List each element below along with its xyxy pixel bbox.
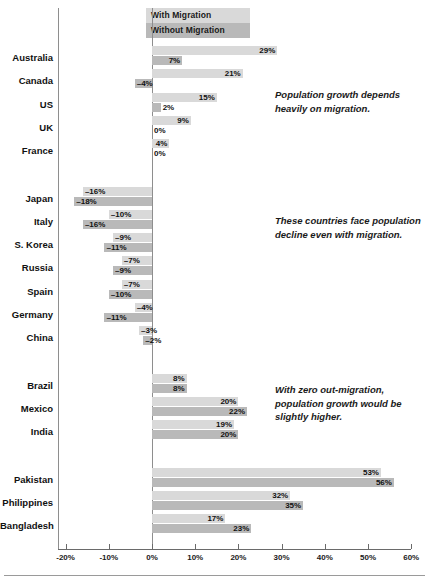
bar-value-with-migration-china: –3% — [141, 326, 157, 335]
bar-value-without-migration-spain: –10% — [111, 290, 131, 299]
x-axis-tick-label: 30% — [274, 553, 290, 562]
category-label-us: US — [0, 99, 53, 110]
bar-without-migration-us — [152, 103, 161, 112]
category-label-spain: Spain — [0, 286, 53, 297]
x-axis-tick-label: 50% — [360, 553, 376, 562]
category-label-china: China — [0, 332, 53, 343]
x-axis-tick — [66, 544, 67, 549]
bar-value-with-migration-us: 15% — [199, 93, 215, 102]
bar-value-with-migration-canada: 21% — [225, 69, 241, 78]
bar-with-migration-philippines — [152, 491, 290, 500]
bar-value-with-migration-italy: –10% — [111, 210, 131, 219]
bar-value-without-migration-france: 0% — [154, 149, 166, 158]
bar-value-without-migration-japan: –18% — [76, 197, 96, 206]
bar-value-without-migration-australia: 7% — [169, 56, 181, 65]
annotation-population-growth-migration: Population growth depends heavily on mig… — [275, 88, 425, 115]
category-label-pakistan: Pakistan — [0, 474, 53, 485]
category-label-mexico: Mexico — [0, 403, 53, 414]
bar-value-with-migration-india: 19% — [216, 420, 232, 429]
category-label-uk: UK — [0, 122, 53, 133]
category-label-italy: Italy — [0, 216, 53, 227]
x-axis-tick-label: 60% — [403, 553, 419, 562]
annotation-zero-out-migration: With zero out-migration, population grow… — [275, 383, 425, 424]
legend-item-with-migration[interactable]: With Migration — [146, 8, 250, 23]
bar-value-without-migration-us: 2% — [163, 103, 175, 112]
x-axis-tick — [109, 544, 110, 549]
x-axis-tick — [238, 544, 239, 549]
bar-value-with-migration-australia: 29% — [259, 46, 275, 55]
bar-value-without-migration-philippines: 35% — [285, 501, 301, 510]
migration-population-growth-chart: With Migration Without Migration -20%-10… — [0, 0, 429, 582]
bar-value-without-migration-russia: –9% — [115, 266, 131, 275]
bar-without-migration-philippines — [152, 501, 303, 510]
x-axis-tick-label: 0% — [146, 553, 158, 562]
bottom-divider-rule — [4, 575, 425, 576]
bar-value-with-migration-philippines: 32% — [272, 491, 288, 500]
x-axis-tick-label: 40% — [317, 553, 333, 562]
category-label-france: France — [0, 145, 53, 156]
bar-value-without-migration-canada: –4% — [137, 79, 153, 88]
bar-value-without-migration-bangladesh: 23% — [233, 524, 249, 533]
category-label-russia: Russia — [0, 262, 53, 273]
x-axis-tick — [368, 544, 369, 549]
bar-value-without-migration-uk: 0% — [154, 126, 166, 135]
x-axis-line — [58, 549, 411, 550]
bar-value-without-migration-italy: –16% — [85, 220, 105, 229]
chart-legend: With Migration Without Migration — [146, 8, 250, 38]
bar-value-with-migration-russia: –7% — [124, 256, 140, 265]
bar-value-with-migration-pakistan: 53% — [363, 468, 379, 477]
category-label-japan: Japan — [0, 193, 53, 204]
category-label-bangladesh: Bangladesh — [0, 520, 53, 531]
bar-value-with-migration-japan: –16% — [85, 187, 105, 196]
bar-value-without-migration-brazil: 8% — [173, 384, 185, 393]
bar-with-migration-pakistan — [152, 468, 381, 477]
annotation-population-decline: These countries face population decline … — [275, 214, 425, 241]
x-axis-tick-label: -20% — [56, 553, 75, 562]
x-axis-tick-label: 20% — [230, 553, 246, 562]
x-axis-tick — [282, 544, 283, 549]
category-label-australia: Australia — [0, 52, 53, 63]
bar-value-with-migration-bangladesh: 17% — [207, 514, 223, 523]
bar-value-without-migration-germany: –11% — [106, 313, 126, 322]
bar-value-with-migration-spain: –7% — [124, 280, 140, 289]
bar-value-without-migration-mexico: 22% — [229, 407, 245, 416]
bar-value-with-migration-brazil: 8% — [173, 374, 185, 383]
bar-value-with-migration-s-korea: –9% — [115, 233, 131, 242]
bar-value-with-migration-uk: 9% — [177, 116, 189, 125]
x-axis-tick — [152, 544, 153, 549]
x-axis-tick — [195, 544, 196, 549]
category-label-germany: Germany — [0, 309, 53, 320]
bar-value-with-migration-france: 4% — [156, 139, 168, 148]
category-label-brazil: Brazil — [0, 380, 53, 391]
category-label-philippines: Philippines — [0, 497, 53, 508]
category-label-india: India — [0, 426, 53, 437]
bar-value-without-migration-china: –2% — [145, 336, 161, 345]
bar-value-with-migration-germany: –4% — [137, 303, 153, 312]
bar-value-without-migration-india: 20% — [220, 430, 236, 439]
category-label-canada: Canada — [0, 75, 53, 86]
x-axis-tick-label: -10% — [99, 553, 118, 562]
bar-value-without-migration-s-korea: –11% — [106, 243, 126, 252]
bar-value-with-migration-mexico: 20% — [220, 397, 236, 406]
x-axis-tick — [325, 544, 326, 549]
category-label-s-korea: S. Korea — [0, 239, 53, 250]
legend-item-without-migration[interactable]: Without Migration — [146, 23, 250, 38]
x-axis-tick-label: 10% — [187, 553, 203, 562]
bar-without-migration-pakistan — [152, 478, 394, 487]
bar-value-without-migration-pakistan: 56% — [376, 478, 392, 487]
left-axis-line — [58, 8, 59, 549]
x-axis-tick — [411, 544, 412, 549]
